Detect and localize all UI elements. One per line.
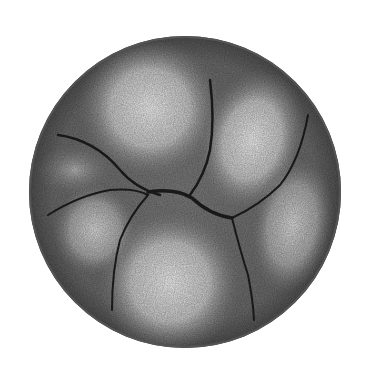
specimen-illustration (0, 0, 366, 376)
